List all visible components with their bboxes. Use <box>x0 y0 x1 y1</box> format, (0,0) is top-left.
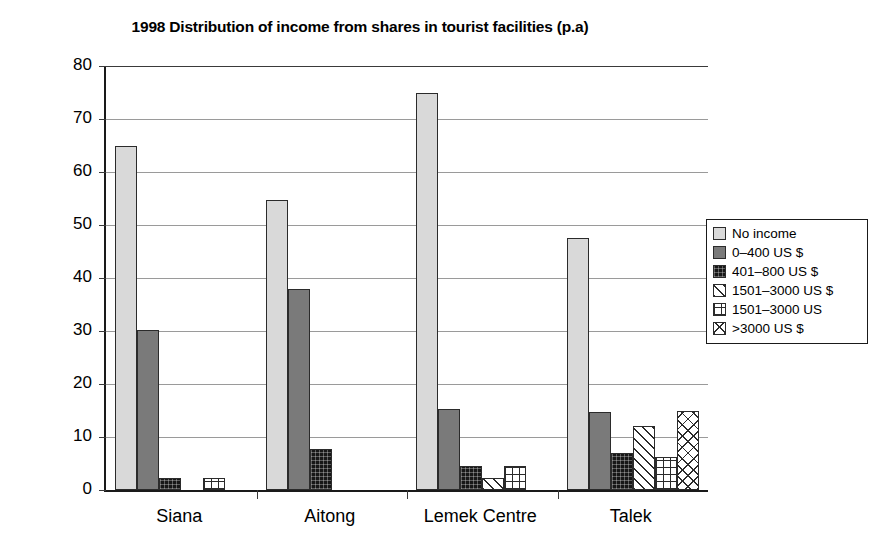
y-tick-label: 10 <box>44 426 92 446</box>
y-tick-label: 0 <box>44 479 92 499</box>
legend-label: >3000 US $ <box>732 322 804 335</box>
y-tick-mark <box>99 490 106 491</box>
y-tick-label: 60 <box>44 161 92 181</box>
bar <box>310 449 332 490</box>
chart-title: 1998 Distribution of income from shares … <box>0 18 720 36</box>
plot-area: % of sample 01020304050607080 <box>104 66 708 492</box>
legend-swatch-icon <box>713 322 726 335</box>
bar <box>589 412 611 490</box>
bar <box>567 238 589 490</box>
y-tick-label: 30 <box>44 320 92 340</box>
legend-item: No income <box>713 224 862 243</box>
y-tick-mark <box>99 119 106 120</box>
y-tick-label: 40 <box>44 267 92 287</box>
bar <box>137 330 159 490</box>
legend-swatch-icon <box>713 303 726 316</box>
y-tick-label: 50 <box>44 214 92 234</box>
legend-item: >3000 US $ <box>713 319 862 338</box>
x-tick-label: Aitong <box>255 506 406 527</box>
y-tick-label: 20 <box>44 373 92 393</box>
bar <box>633 426 655 490</box>
y-tick-mark <box>99 225 106 226</box>
x-axis-tick <box>257 490 258 499</box>
y-tick-label: 80 <box>44 55 92 75</box>
legend-label: 1501–3000 US $ <box>732 284 833 297</box>
x-tick-label: Siana <box>104 506 255 527</box>
bar-group <box>407 66 558 490</box>
bar <box>416 93 438 490</box>
legend-label: 401–800 US $ <box>732 265 818 278</box>
bar-group <box>257 66 408 490</box>
bar <box>288 289 310 490</box>
bar <box>438 409 460 490</box>
bar <box>115 146 137 491</box>
y-tick-mark <box>99 331 106 332</box>
bar <box>203 478 225 490</box>
legend-item: 1501–3000 US <box>713 300 862 319</box>
legend-item: 1501–3000 US $ <box>713 281 862 300</box>
legend-swatch-icon <box>713 246 726 259</box>
x-tick-label: Lemek Centre <box>405 506 556 527</box>
bar <box>266 200 288 490</box>
y-tick-mark <box>99 384 106 385</box>
y-tick-mark <box>99 437 106 438</box>
bar <box>611 453 633 490</box>
x-axis-tick <box>558 490 559 499</box>
bar-group <box>558 66 709 490</box>
y-tick-mark <box>99 172 106 173</box>
bar <box>482 478 504 490</box>
bar <box>504 466 526 490</box>
x-axis-tick <box>407 490 408 499</box>
legend-item: 401–800 US $ <box>713 262 862 281</box>
y-tick-mark <box>99 66 106 67</box>
y-tick-mark <box>99 278 106 279</box>
bar <box>655 457 677 490</box>
legend-item: 0–400 US $ <box>713 243 862 262</box>
legend-swatch-icon <box>713 227 726 240</box>
bar <box>460 466 482 490</box>
bar-group <box>106 66 257 490</box>
legend-swatch-icon <box>713 284 726 297</box>
chart-legend: No income0–400 US $401–800 US $1501–3000… <box>706 219 868 344</box>
legend-swatch-icon <box>713 265 726 278</box>
x-tick-label: Talek <box>556 506 707 527</box>
y-tick-label: 70 <box>44 108 92 128</box>
legend-label: 1501–3000 US <box>732 303 822 316</box>
bar <box>677 411 699 491</box>
legend-label: No income <box>732 227 797 240</box>
legend-label: 0–400 US $ <box>732 246 803 259</box>
bar <box>159 478 181 490</box>
